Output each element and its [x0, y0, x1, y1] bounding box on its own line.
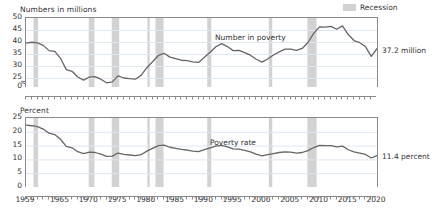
poverty-chart-figure: Recession Numbers in millions 0253035404… — [0, 0, 433, 214]
y-axis-labels-top: 0253035404550 — [0, 17, 22, 87]
y-tick-label: 30 — [12, 61, 22, 69]
recession-band — [33, 18, 38, 87]
recession-band — [269, 18, 272, 87]
y-tick-label: 25 — [12, 113, 22, 121]
y-tick-label: 5 — [17, 168, 22, 176]
data-line — [26, 125, 377, 158]
end-value-label-bottom: 11.4 percent — [382, 152, 430, 161]
y-tick-label: 0 — [17, 182, 22, 190]
y-tick-label: 40 — [12, 37, 22, 45]
chart-svg — [26, 18, 377, 87]
panel-poverty-rate: Percent 0510152025 Poverty rate 11.4 per… — [0, 104, 433, 214]
end-value-label-top: 37.2 million — [382, 46, 426, 55]
x-axis-ticks — [25, 186, 376, 191]
axis-title-top: Numbers in millions — [20, 5, 96, 14]
axis-title-bottom: Percent — [20, 106, 49, 115]
panel-number-in-poverty: Numbers in millions 0253035404550 ≈ Numb… — [0, 0, 433, 104]
recession-band — [155, 18, 163, 87]
recession-band — [307, 18, 316, 87]
recession-band — [207, 118, 211, 187]
recession-band — [307, 118, 316, 187]
y-tick-label: 50 — [12, 13, 22, 21]
recession-band — [147, 18, 149, 87]
series-label-poverty-rate: Poverty rate — [210, 138, 256, 147]
y-axis-labels-bottom: 0510152025 — [0, 117, 22, 187]
y-tick-label: 45 — [12, 25, 22, 33]
y-tick-label: 20 — [12, 127, 22, 135]
y-tick-label: 35 — [12, 49, 22, 57]
plot-area-top — [25, 17, 378, 87]
recession-band — [155, 118, 163, 187]
x-axis-ticks — [25, 86, 376, 91]
recession-band — [147, 118, 149, 187]
recession-band — [33, 118, 38, 187]
plot-area-bottom — [25, 117, 378, 187]
y-tick-label: 10 — [12, 154, 22, 162]
series-label-number-in-poverty: Number in poverty — [215, 33, 286, 42]
y-tick-label: 15 — [12, 141, 22, 149]
recession-band — [269, 118, 272, 187]
chart-svg — [26, 118, 377, 187]
